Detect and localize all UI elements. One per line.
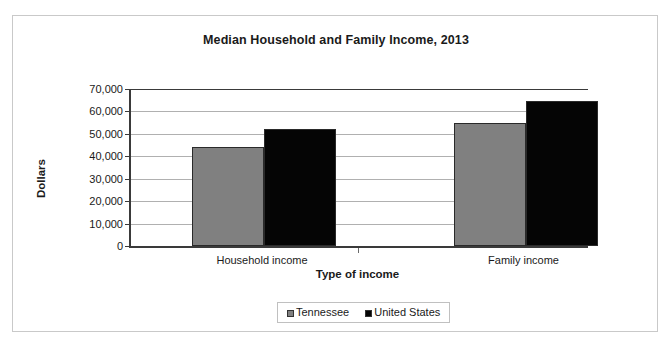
y-axis-tick-mark bbox=[125, 111, 129, 112]
y-axis-tick-label: 40,000 bbox=[61, 150, 123, 162]
y-axis-tick-label: 0 bbox=[61, 240, 123, 252]
gridline bbox=[131, 111, 588, 112]
y-axis-tick-mark bbox=[125, 179, 129, 180]
y-axis-tick-mark bbox=[125, 156, 129, 157]
x-axis-category-label: Family income bbox=[488, 254, 559, 266]
plot-inner bbox=[131, 89, 588, 246]
gray-square-icon bbox=[287, 310, 294, 317]
bar-tennessee-household-income bbox=[192, 147, 264, 246]
plot-area bbox=[129, 89, 588, 248]
legend-item-tennessee: Tennessee bbox=[287, 306, 349, 318]
y-axis-tick-label: 60,000 bbox=[61, 105, 123, 117]
y-axis-title: Dollars bbox=[31, 124, 51, 234]
chart-legend: Tennessee United States bbox=[277, 302, 450, 323]
y-axis-tick-label: 10,000 bbox=[61, 218, 123, 230]
y-axis-tick-mark bbox=[125, 89, 129, 90]
y-axis-tick-label: 30,000 bbox=[61, 173, 123, 185]
y-axis-tick-mark bbox=[125, 201, 129, 202]
legend-label: Tennessee bbox=[296, 306, 349, 318]
x-axis-title: Type of income bbox=[129, 268, 586, 280]
y-axis-tick-label: 50,000 bbox=[61, 128, 123, 140]
gridline bbox=[131, 89, 588, 90]
x-axis-category-label: Household income bbox=[216, 254, 307, 266]
y-axis-tick-mark bbox=[125, 224, 129, 225]
y-axis-tick-label: 70,000 bbox=[61, 83, 123, 95]
chart-title: Median Household and Family Income, 2013 bbox=[13, 33, 659, 47]
black-square-icon bbox=[365, 310, 372, 317]
legend-item-united-states: United States bbox=[365, 306, 440, 318]
y-axis-tick-label: 20,000 bbox=[61, 195, 123, 207]
y-axis-tick-mark bbox=[125, 246, 129, 247]
legend-label: United States bbox=[374, 306, 440, 318]
bar-united-states-household-income bbox=[264, 129, 336, 246]
bar-united-states-family-income bbox=[526, 101, 598, 246]
x-axis-tick-mark bbox=[358, 248, 359, 253]
y-axis-tick-mark bbox=[125, 134, 129, 135]
bar-tennessee-family-income bbox=[454, 123, 526, 246]
chart-frame: Median Household and Family Income, 2013… bbox=[12, 15, 658, 332]
